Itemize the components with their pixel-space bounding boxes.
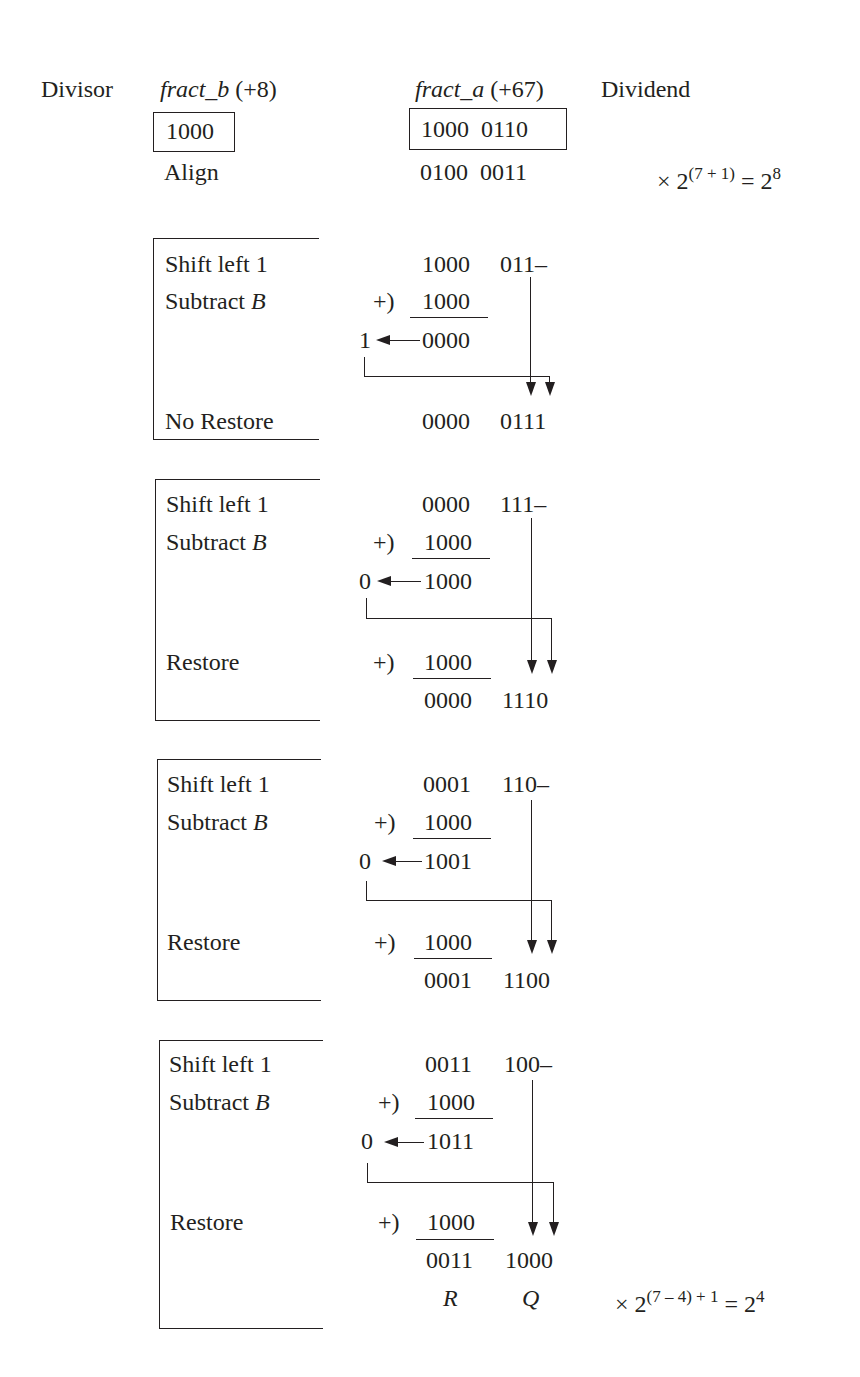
step-4-lo-arrow-icon — [528, 1222, 538, 1236]
step-2-shift-label: Shift left 1 — [166, 490, 269, 518]
step-4-addend: 1000 — [427, 1088, 475, 1116]
step-3-addend: 1000 — [424, 808, 472, 836]
step-1-result-hi: 0000 — [422, 407, 470, 435]
fract-a-label: fract_a (+67) — [415, 75, 544, 103]
subtract-var: B — [253, 809, 268, 835]
step-1-carry: 1 — [359, 326, 371, 354]
align-label: Align — [164, 158, 219, 186]
quotient-label: Q — [522, 1284, 539, 1312]
step-4-carry-route-h — [367, 1182, 554, 1183]
step-1-addend: 1000 — [422, 287, 470, 315]
step-1-sum: 0000 — [422, 326, 470, 354]
step-1-lo-arrow-icon — [526, 382, 536, 396]
step-3-sum: 1001 — [424, 847, 472, 875]
step-4-add-op: +) — [378, 1088, 400, 1116]
step-3-shift-label: Shift left 1 — [167, 770, 270, 798]
scale-result-exponent: 4 — [756, 1287, 765, 1306]
step-2-subtract-label: Subtract B — [166, 528, 267, 556]
step-3-restore-op: +) — [374, 928, 396, 956]
step-1-subtract-label: Subtract B — [165, 287, 266, 315]
step-4-carry-arrow-line — [396, 1142, 424, 1143]
step-2-sum: 1000 — [424, 567, 472, 595]
scale-result-exponent: 8 — [773, 164, 782, 183]
dividend-label: Dividend — [601, 75, 690, 103]
step-4-restore-addend: 1000 — [427, 1208, 475, 1236]
step-3-carry-route-v — [366, 881, 367, 901]
step-2-add-op: +) — [373, 528, 395, 556]
step-2-shifted-lo: 111– — [500, 490, 546, 518]
fract-b-value: (+8) — [235, 76, 277, 102]
fract-a-name: fract_a — [415, 76, 484, 102]
remainder-label: R — [443, 1284, 458, 1312]
scale-equals: = 2 — [735, 168, 773, 194]
step-4-lo-route — [532, 1080, 533, 1223]
step-2-shifted-hi: 0000 — [422, 490, 470, 518]
scale-exponent: (7 + 1) — [689, 164, 735, 183]
step-4-carry-route-v — [367, 1163, 368, 1183]
step-4-restore-rule — [416, 1239, 494, 1240]
step-3-carry: 0 — [359, 847, 371, 875]
step-4-subtract-label: Subtract B — [169, 1088, 270, 1116]
step-4-result-lo: 1000 — [505, 1246, 553, 1274]
step-2-carry-arrow-line — [389, 581, 421, 582]
step-1-carry-route-v — [364, 357, 365, 377]
step-3-result-lo: 1100 — [503, 966, 550, 994]
subtract-var: B — [251, 288, 266, 314]
step-4-result-hi: 0011 — [426, 1246, 473, 1274]
step-3-lo-route — [531, 800, 532, 941]
step-2-carry-route-down — [551, 618, 552, 662]
scale-prefix: × 2 — [657, 168, 689, 194]
step-3-lo-arrow-icon — [527, 940, 537, 954]
step-4-shifted-hi: 0011 — [425, 1050, 472, 1078]
step-1-shifted-lo: 011– — [500, 250, 547, 278]
step-2-result-hi: 0000 — [424, 686, 472, 714]
step-3-shifted-hi: 0001 — [423, 770, 471, 798]
step-3-add-op: +) — [374, 808, 396, 836]
step-3-subtract-label: Subtract B — [167, 808, 268, 836]
dividend-bits: 1000 0110 — [421, 115, 528, 143]
fract-b-label: fract_b (+8) — [160, 75, 277, 103]
step-3-carry-route-down — [551, 900, 552, 942]
step-2-carry: 0 — [359, 567, 371, 595]
step-1-add-op: +) — [373, 287, 395, 315]
subtract-var: B — [255, 1089, 270, 1115]
step-3-restore-label: Restore — [167, 928, 240, 956]
step-1-carry-arrow-line — [388, 340, 420, 341]
step-2-lo-route — [531, 518, 532, 661]
step-1-q-bit-arrow-icon — [545, 382, 555, 396]
subtract-var: B — [252, 529, 267, 555]
step-4-shifted-lo: 100– — [504, 1050, 552, 1078]
step-3-restore-rule — [414, 958, 492, 959]
divisor-label: Divisor — [41, 75, 113, 103]
subtract-text: Subtract — [166, 529, 252, 555]
step-4-sum-rule — [415, 1118, 493, 1119]
step-4-q-bit-arrow-icon — [549, 1222, 559, 1236]
step-1-sum-rule — [410, 317, 488, 318]
step-2-carry-route-v — [366, 598, 367, 618]
scale-exponent: (7 – 4) + 1 — [647, 1287, 719, 1306]
step-4-restore-op: +) — [378, 1208, 400, 1236]
step-2-restore-addend: 1000 — [424, 648, 472, 676]
step-3-shifted-lo: 110– — [502, 770, 549, 798]
scale-prefix: × 2 — [615, 1291, 647, 1317]
step-3-result-hi: 0001 — [424, 966, 472, 994]
step-2-q-bit-arrow-icon — [547, 660, 557, 674]
step-1-result-lo: 0111 — [500, 407, 546, 435]
step-2-addend: 1000 — [424, 528, 472, 556]
subtract-text: Subtract — [167, 809, 253, 835]
step-4-shift-label: Shift left 1 — [169, 1050, 272, 1078]
aligned-bits: 0100 0011 — [420, 158, 527, 186]
step-1-restore-label: No Restore — [165, 407, 274, 435]
subtract-text: Subtract — [165, 288, 251, 314]
step-3-carry-route-h — [366, 900, 552, 901]
result-scale-factor: × 2(7 – 4) + 1 = 24 — [615, 1290, 765, 1321]
step-1-shifted-hi: 1000 — [422, 250, 470, 278]
step-3-q-bit-arrow-icon — [547, 940, 557, 954]
step-2-result-lo: 1110 — [502, 686, 548, 714]
step-4-bracket — [159, 1040, 323, 1329]
step-4-restore-label: Restore — [170, 1208, 243, 1236]
step-3-restore-addend: 1000 — [424, 928, 472, 956]
step-2-restore-rule — [413, 678, 491, 679]
step-1-carry-route-h — [364, 376, 550, 377]
step-2-carry-route-h — [366, 618, 552, 619]
